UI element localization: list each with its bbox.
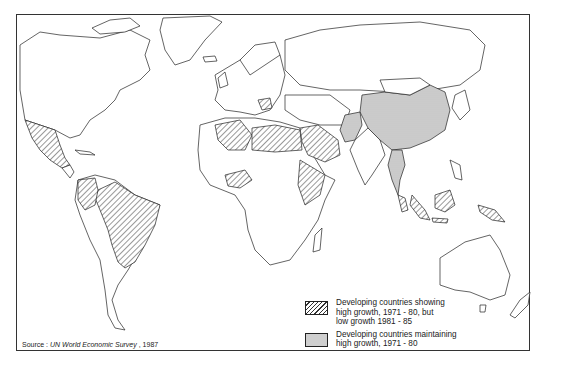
philippines <box>450 160 462 180</box>
map-legend: Developing countries showing high growth… <box>305 298 525 352</box>
turkey-iran <box>285 95 350 125</box>
cuba <box>75 150 95 155</box>
java <box>432 218 448 223</box>
legend-item-hatched: Developing countries showing high growth… <box>305 298 525 327</box>
korea-japan <box>452 90 470 120</box>
malaysia <box>398 195 408 212</box>
thailand-burma <box>388 150 405 195</box>
papua-new-guinea <box>478 205 505 222</box>
sumatra <box>410 195 430 220</box>
legend-label-hatched: Developing countries showing high growth… <box>336 298 445 327</box>
legend-label-stippled: Developing countries maintaining high gr… <box>336 330 457 349</box>
hatched-swatch-icon <box>305 301 328 315</box>
stippled-swatch-icon <box>305 333 328 347</box>
libya-egypt <box>252 125 302 152</box>
source-caption: Source : UN World Economic Survey , 1987 <box>22 341 158 348</box>
north-america <box>20 30 150 138</box>
madagascar <box>313 228 322 252</box>
legend-item-stippled: Developing countries maintaining high gr… <box>305 330 525 349</box>
iceland <box>203 56 217 62</box>
australia <box>440 235 510 300</box>
borneo <box>435 190 455 212</box>
